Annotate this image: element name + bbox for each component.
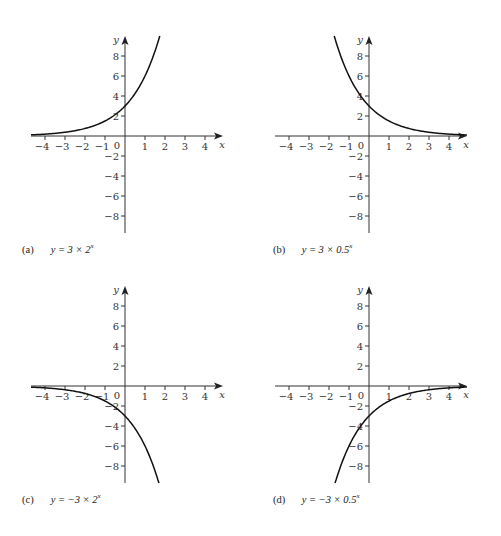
y-tick-label: 6	[113, 321, 119, 332]
x-tick-label: 4	[202, 391, 208, 402]
y-tick-label: 8	[357, 301, 363, 312]
x-tick-label: 1	[142, 391, 148, 402]
x-tick-label: 3	[182, 391, 188, 402]
y-tick-label: 2	[357, 361, 363, 372]
x-tick-label: 2	[162, 141, 168, 152]
plot-panel-b: −4−3−2−112348642−2−4−6−80xy	[275, 34, 469, 233]
caption-exponent: x	[349, 242, 352, 250]
x-tick-label: −3	[299, 141, 314, 152]
y-tick-label: 6	[113, 71, 119, 82]
x-tick-label: 4	[446, 391, 452, 402]
x-tick-label: 3	[182, 141, 188, 152]
y-tick-label: −2	[348, 151, 363, 162]
plot-panel-a: −4−3−2−112348642−2−4−6−80xy	[31, 34, 225, 233]
caption-exponent: x	[356, 492, 359, 500]
caption-tag: (d)	[273, 494, 299, 505]
y-tick-label: 2	[113, 361, 119, 372]
caption-tag: (c)	[22, 494, 48, 505]
y-tick-label: 2	[357, 111, 363, 122]
y-axis-label: y	[112, 34, 119, 45]
function-curve	[31, 36, 160, 135]
x-tick-label: −4	[279, 391, 294, 402]
origin-label: 0	[114, 140, 120, 151]
x-tick-label: −2	[75, 141, 90, 152]
caption-exponent: x	[98, 492, 101, 500]
x-tick-label: 2	[406, 141, 412, 152]
caption-tag: (b)	[273, 244, 299, 255]
x-tick-label: 3	[426, 141, 432, 152]
origin-label: 0	[114, 390, 120, 401]
y-tick-label: 8	[357, 51, 363, 62]
y-axis-label: y	[112, 284, 119, 295]
plot-panel-c: −4−3−2−112348642−2−4−6−80xy	[31, 284, 225, 483]
y-tick-label: −8	[348, 461, 363, 472]
y-tick-label: 6	[357, 71, 363, 82]
x-tick-label: −4	[35, 141, 50, 152]
origin-label: 0	[358, 390, 364, 401]
y-tick-label: 4	[113, 341, 119, 352]
caption-equation: y = 3 × 2	[51, 244, 91, 255]
caption-equation: y = 3 × 0.5	[302, 244, 350, 255]
plot-panel-d: −4−3−2−112348642−2−4−6−80xy	[275, 284, 469, 483]
x-tick-label: 4	[202, 141, 208, 152]
x-tick-label: −4	[35, 391, 50, 402]
y-tick-label: −6	[348, 191, 363, 202]
caption-exponent: x	[90, 242, 93, 250]
x-tick-label: 2	[162, 391, 168, 402]
x-axis-label: x	[463, 389, 469, 400]
y-tick-label: 4	[357, 341, 363, 352]
caption-c: (c) y = −3 × 2x	[22, 492, 101, 505]
y-axis-label: y	[356, 284, 363, 295]
y-axis-label: y	[356, 34, 363, 45]
caption-equation: y = −3 × 0.5	[302, 494, 357, 505]
x-tick-label: 3	[426, 391, 432, 402]
y-tick-label: −2	[104, 151, 119, 162]
caption-equation: y = −3 × 2	[51, 494, 98, 505]
caption-a: (a) y = 3 × 2x	[22, 242, 94, 255]
x-tick-label: −2	[319, 141, 334, 152]
y-tick-label: −2	[348, 401, 363, 412]
y-tick-label: −6	[104, 441, 119, 452]
x-tick-label: −2	[319, 391, 334, 402]
x-tick-label: −4	[279, 141, 294, 152]
x-tick-label: −3	[55, 141, 70, 152]
y-tick-label: −8	[104, 461, 119, 472]
x-axis-label: x	[219, 389, 225, 400]
x-axis-label: x	[219, 139, 225, 150]
origin-label: 0	[358, 140, 364, 151]
y-tick-label: −8	[348, 211, 363, 222]
x-tick-label: −3	[55, 391, 70, 402]
caption-b: (b) y = 3 × 0.5x	[273, 242, 352, 255]
exponential-graphs-figure: −4−3−2−112348642−2−4−6−80xy−4−3−2−112348…	[0, 0, 501, 536]
y-tick-label: 6	[357, 321, 363, 332]
y-tick-label: 4	[113, 91, 119, 102]
x-tick-label: −3	[299, 391, 314, 402]
function-curve	[334, 36, 467, 135]
caption-tag: (a)	[22, 244, 48, 255]
x-axis-label: x	[463, 139, 469, 150]
y-tick-label: −4	[348, 171, 363, 182]
y-tick-label: 8	[113, 301, 119, 312]
y-tick-label: −4	[104, 421, 119, 432]
x-tick-label: 1	[386, 141, 392, 152]
y-tick-label: −8	[104, 211, 119, 222]
y-tick-label: −4	[104, 171, 119, 182]
x-tick-label: 1	[142, 141, 148, 152]
x-tick-label: 4	[446, 141, 452, 152]
caption-d: (d) y = −3 × 0.5x	[273, 492, 360, 505]
y-tick-label: −6	[104, 191, 119, 202]
y-tick-label: 8	[113, 51, 119, 62]
